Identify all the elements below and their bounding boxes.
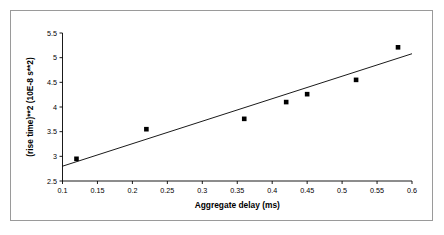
y-axis-tick-label: 3.5 (47, 127, 57, 136)
data-point-marker (144, 127, 149, 132)
x-axis-title: Aggregate delay (ms) (195, 200, 280, 210)
data-point-marker (354, 78, 359, 83)
x-axis-tick-label: 0.5 (337, 186, 347, 195)
data-point-marker (396, 45, 401, 50)
data-point-marker (74, 157, 79, 162)
y-axis-title: (rise time)**2 (10E-8 s**2) (25, 57, 35, 157)
y-axis-tick-label: 5 (53, 53, 57, 62)
y-axis-tick-label: 3 (53, 152, 57, 161)
x-axis-tick-label: 0.45 (300, 186, 314, 195)
x-axis-tick-label: 0.55 (370, 186, 384, 195)
y-axis-tick-label: 4.5 (47, 78, 57, 87)
data-point-marker (242, 117, 247, 122)
x-axis-tick-label: 0.1 (58, 186, 68, 195)
x-axis-tick-label: 0.6 (407, 186, 417, 195)
x-axis-tick-label: 0.4 (267, 186, 277, 195)
y-axis-tick-label: 5.5 (47, 29, 57, 38)
x-axis-tick-label: 0.25 (160, 186, 174, 195)
x-axis-tick-label: 0.35 (230, 186, 244, 195)
y-axis-tick-label: 4 (53, 103, 57, 112)
chart-figure: 2.533.544.555.50.10.150.20.250.30.350.40… (0, 0, 444, 235)
data-point-marker (284, 100, 289, 105)
data-point-marker (305, 92, 310, 97)
x-axis-tick-label: 0.2 (127, 186, 137, 195)
x-axis-tick-label: 0.15 (90, 186, 104, 195)
scatter-plot: 2.533.544.555.50.10.150.20.250.30.350.40… (0, 0, 444, 235)
x-axis-tick-label: 0.3 (197, 186, 207, 195)
trendline (63, 54, 413, 166)
y-axis-tick-label: 2.5 (47, 177, 57, 186)
